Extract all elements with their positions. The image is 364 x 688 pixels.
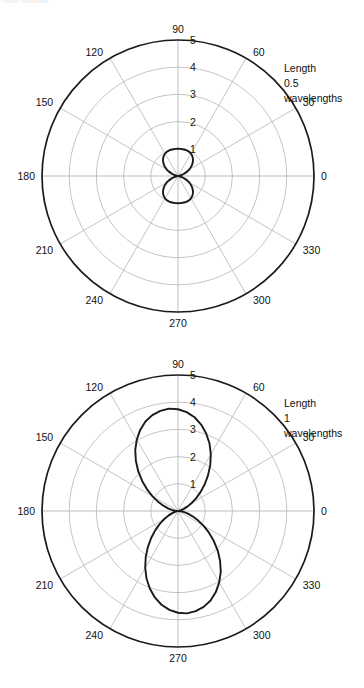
angle-label-210: 210 [36,244,54,256]
angle-label-60: 60 [253,381,265,393]
radial-tick-labels: 12345 [190,369,196,490]
radial-tick-5: 5 [190,369,196,381]
annotation-line3: wavelengths [283,92,342,104]
angle-label-240: 240 [85,294,103,306]
angle-label-60: 60 [253,46,265,58]
angle-label-300: 300 [253,629,271,641]
angle-label-150: 150 [36,431,54,443]
angle-label-120: 120 [85,381,103,393]
angle-label-270: 270 [169,317,187,329]
angle-label-0: 0 [321,505,327,517]
angle-label-90: 90 [172,358,184,370]
annotation-line2: 0.5 [284,77,299,89]
angle-label-300: 300 [253,294,271,306]
radial-tick-4: 4 [190,396,196,408]
annotation-line1: Length [284,397,316,409]
radial-tick-5: 5 [190,34,196,46]
polar-plot-0: 030609012015018021024027030033012345Leng… [0,20,364,340]
length-annotation: Length0.5wavelengths [283,62,342,104]
angle-label-210: 210 [36,579,54,591]
angle-label-0: 0 [321,170,327,182]
radial-tick-2: 2 [190,116,196,128]
radial-tick-2: 2 [190,451,196,463]
radial-tick-3: 3 [190,88,196,100]
annotation-line3: wavelengths [283,427,342,439]
angle-label-330: 330 [303,579,321,591]
radial-tick-labels: 12345 [190,34,196,155]
angle-label-180: 180 [17,505,35,517]
annotation-line2: 1 [284,412,290,424]
radial-tick-3: 3 [190,423,196,435]
angle-label-180: 180 [17,170,35,182]
radial-tick-1: 1 [190,478,196,490]
radial-tick-1: 1 [190,143,196,155]
cropped-header-text: iliiiiii iiliiiiiiiiiili [4,0,49,4]
annotation-line1: Length [284,62,316,74]
polar-plot-1: 030609012015018021024027030033012345Leng… [0,355,364,675]
length-annotation: Length1wavelengths [283,397,342,439]
angle-label-150: 150 [36,96,54,108]
angle-label-240: 240 [85,629,103,641]
angle-label-120: 120 [85,46,103,58]
angle-label-330: 330 [303,244,321,256]
polar-chart-1: 030609012015018021024027030033012345Leng… [0,355,364,675]
radial-tick-4: 4 [190,61,196,73]
polar-chart-0: 030609012015018021024027030033012345Leng… [0,20,364,340]
angle-label-90: 90 [172,23,184,35]
angle-label-270: 270 [169,652,187,664]
